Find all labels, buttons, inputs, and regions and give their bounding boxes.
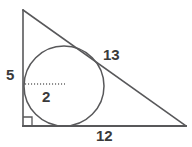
label-radius: 2 xyxy=(42,89,50,104)
right-angle-marker-icon xyxy=(23,117,32,126)
label-base: 12 xyxy=(96,128,113,143)
label-vertical-leg: 5 xyxy=(6,67,14,82)
triangle-hypotenuse xyxy=(23,10,186,126)
geometry-canvas xyxy=(0,0,192,147)
inscribed-circle xyxy=(24,46,104,126)
label-hypotenuse: 13 xyxy=(103,47,120,62)
geometry-figure: 5 2 13 12 xyxy=(0,0,192,147)
